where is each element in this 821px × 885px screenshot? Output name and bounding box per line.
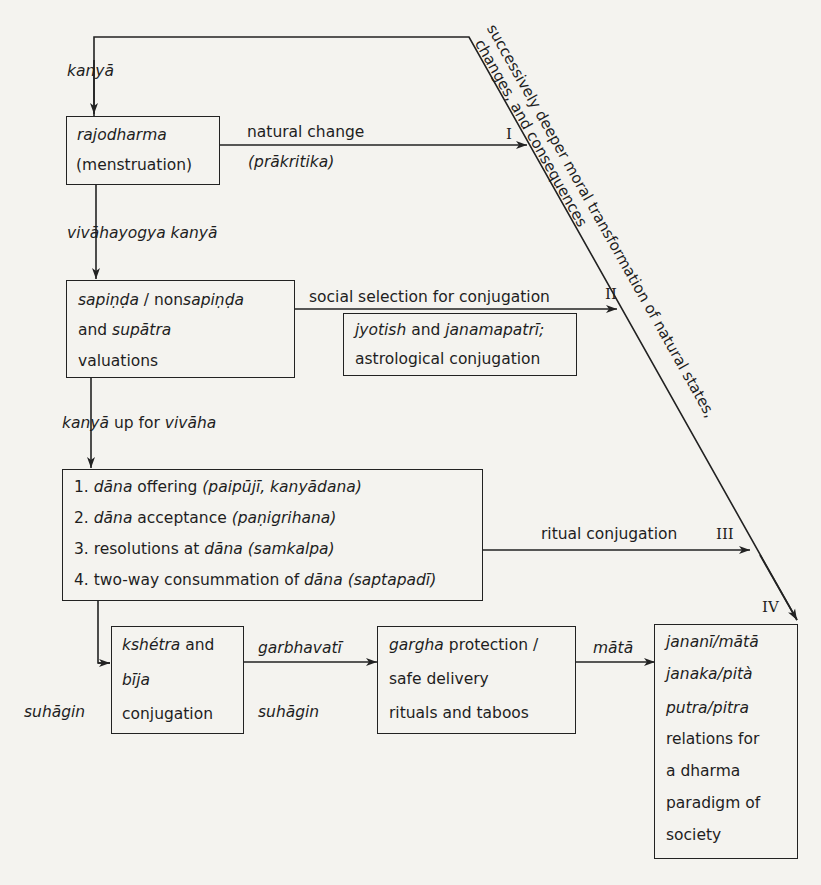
node-dana-stages: 1. dāna offering (paipūjī, kanyādana) 2.… [62, 469, 483, 601]
edge-label-suhagin-mid: suhāgin [258, 705, 319, 721]
node-rajodharma: rajodharma (menstruation) [66, 116, 220, 185]
node-jyotish: jyotish and janamapatrī; astrological co… [343, 313, 577, 376]
edge-label-kanya-up-for-vivaha: kanyā up for vivāha [62, 416, 216, 432]
dana-item-3: 3. resolutions at dāna (samkalpa) [74, 542, 335, 558]
edge-label-natural-change: natural change [247, 125, 364, 141]
edge-label-prakritika: (prākritika) [248, 155, 334, 171]
edge-label-vivahayogya: vivāhayogya kanyā [67, 226, 218, 242]
dana-item-2: 2. dāna acceptance (paṇigrihana) [74, 511, 336, 527]
edge-label-kanya: kanyā [67, 64, 114, 80]
diagram-canvas: I II III IV successively deeper moral tr… [0, 0, 821, 885]
stage-marker-iii: III [716, 527, 734, 542]
dana-item-1: 1. dāna offering (paipūjī, kanyādana) [74, 480, 362, 496]
node-gargha-protection: gargha protection / safe delivery ritual… [377, 626, 576, 734]
edge-label-ritual-conjugation: ritual conjugation [541, 527, 677, 543]
edge-label-garbhavati: garbhavatī [258, 641, 342, 657]
node-sapinda-valuations: sapiṇḍa / nonsapiṇḍa and supātra valuati… [66, 280, 295, 378]
stage-marker-ii: II [605, 287, 617, 302]
line-dana-to-kshetra [98, 600, 110, 663]
node-kshetra-bija: kshétra and bīja conjugation [111, 626, 244, 734]
node-dharma-relations: jananī/mātā janaka/pità putra/pitra rela… [654, 624, 798, 859]
edge-label-suhagin-left: suhāgin [24, 705, 85, 721]
edge-label-mata: mātā [593, 641, 633, 657]
dana-item-4: 4. two-way consummation of dāna (saptapa… [74, 573, 436, 589]
stage-marker-iv: IV [762, 600, 779, 615]
edge-label-social-selection: social selection for conjugation [309, 290, 550, 306]
stage-marker-i: I [506, 127, 512, 142]
